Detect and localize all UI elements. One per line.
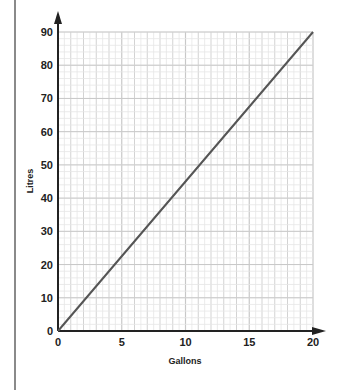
y-tick-label: 50: [41, 159, 53, 171]
gallons-litres-chart: 051015200102030405060708090 Gallons Litr…: [0, 0, 339, 390]
y-axis-label: Litres: [25, 169, 35, 194]
x-tick-label: 15: [243, 336, 255, 348]
x-tick-label: 10: [179, 336, 191, 348]
x-tick-label: 20: [307, 336, 319, 348]
y-tick-label: 20: [41, 259, 53, 271]
y-tick-label: 0: [47, 325, 53, 337]
y-tick-label: 10: [41, 292, 53, 304]
y-tick-label: 60: [41, 126, 53, 138]
y-tick-label: 40: [41, 192, 53, 204]
y-tick-label: 90: [41, 26, 53, 38]
x-tick-label: 5: [119, 336, 125, 348]
y-tick-label: 80: [41, 59, 53, 71]
y-tick-label: 30: [41, 225, 53, 237]
x-tick-label: 0: [55, 336, 61, 348]
x-axis-arrow-icon: [312, 327, 326, 335]
y-axis-arrow-icon: [54, 11, 62, 24]
y-tick-label: 70: [41, 92, 53, 104]
x-axis-label: Gallons: [168, 356, 201, 366]
